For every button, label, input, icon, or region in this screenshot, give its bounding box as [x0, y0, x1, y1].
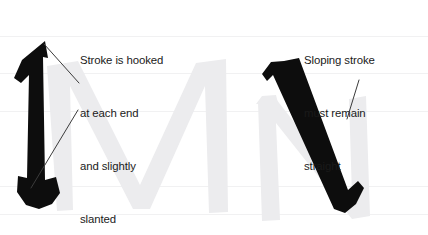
annotation-right-line-2: must remain [304, 105, 375, 123]
annotation-right-line-3: straight [304, 158, 375, 176]
annotation-left-line-4: slanted [80, 211, 163, 229]
annotation-right-callout: Sloping stroke must remain straight [304, 17, 375, 211]
leader-line-left-upper [44, 44, 79, 83]
annotation-right-line-1: Sloping stroke [304, 52, 375, 70]
annotation-left-line-2: at each end [80, 105, 163, 123]
annotation-left-line-3: and slightly [80, 158, 163, 176]
annotation-left-line-1: Stroke is hooked [80, 52, 163, 70]
leader-line-left-lower [31, 110, 78, 188]
diagram-canvas: Stroke is hooked at each end and slightl… [0, 0, 428, 235]
annotation-left-callout: Stroke is hooked at each end and slightl… [80, 17, 163, 235]
